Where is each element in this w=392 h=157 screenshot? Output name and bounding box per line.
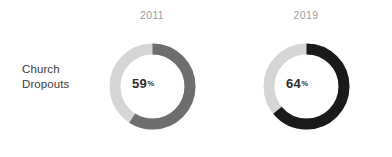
donut-value-2019: 64%: [286, 76, 342, 91]
donut-value-unit-2019: %: [301, 79, 308, 88]
church-dropouts-chart: Church Dropouts 2011 59% 2019 64%: [0, 0, 392, 157]
donut-value-2011: 59%: [132, 76, 188, 91]
donut-group-2011: 2011 59%: [92, 0, 212, 157]
year-label-2019: 2019: [246, 9, 366, 21]
donut-value-unit-2011: %: [147, 79, 154, 88]
year-label-2011: 2011: [92, 9, 212, 21]
donut-group-2019: 2019 64%: [246, 0, 366, 157]
donut-value-number-2019: 64: [286, 76, 301, 91]
donut-value-number-2011: 59: [132, 76, 147, 91]
